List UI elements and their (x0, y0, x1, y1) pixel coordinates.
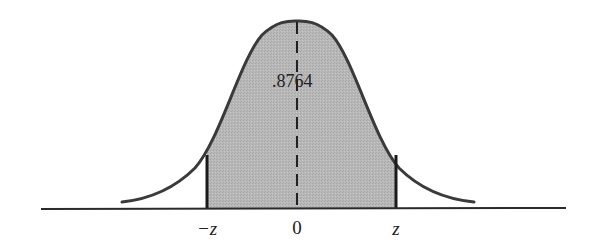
tick-label-negative-z: −z (197, 219, 217, 238)
shaded-area-value: .8764 (272, 72, 313, 90)
normal-curve-figure (0, 0, 595, 246)
tick-label-zero: 0 (292, 218, 302, 237)
tick-label-z: z (392, 219, 399, 238)
x-axis-baseline (41, 208, 566, 209)
